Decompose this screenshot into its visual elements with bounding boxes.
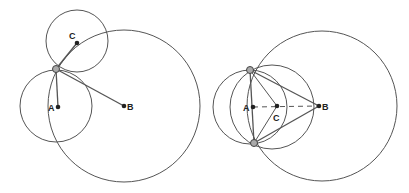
segment-p-b bbox=[56, 69, 124, 106]
right-figure bbox=[213, 31, 397, 181]
segment-p1-b bbox=[250, 70, 319, 106]
point-c bbox=[275, 104, 280, 109]
segment-p2-c bbox=[254, 106, 277, 143]
intersection-point-bottom bbox=[251, 140, 258, 147]
point-b bbox=[317, 104, 322, 109]
label-a-right: A bbox=[243, 103, 250, 113]
label-c-right: C bbox=[273, 113, 280, 123]
point-a bbox=[251, 105, 256, 110]
segment-p-a bbox=[56, 69, 58, 107]
segment-p1-c bbox=[250, 70, 277, 106]
left-figure bbox=[20, 10, 200, 182]
segment-p-c bbox=[56, 43, 77, 69]
label-b-right: B bbox=[322, 102, 329, 112]
point-a bbox=[56, 105, 61, 110]
intersection-point-top bbox=[247, 67, 254, 74]
label-a-left: A bbox=[48, 103, 55, 113]
intersection-point bbox=[53, 66, 60, 73]
point-c bbox=[75, 41, 80, 46]
geometry-diagram: C A B A C B bbox=[0, 0, 409, 193]
dashed-a-b bbox=[253, 106, 319, 107]
label-c-left: C bbox=[69, 31, 76, 41]
label-b-left: B bbox=[127, 102, 134, 112]
point-b bbox=[122, 104, 127, 109]
